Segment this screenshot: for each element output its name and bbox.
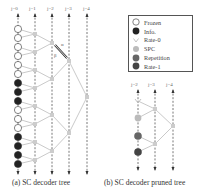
leaf-frozen: [14, 124, 21, 131]
stage-label-j4: j=4: [165, 82, 173, 87]
tree-b-internal-nodes: [153, 107, 175, 146]
tree-a-leaves: [14, 25, 21, 167]
caption-tree-b: (b) SC decoder pruned tree: [104, 178, 185, 187]
legend-item-rate-0: Rate-0: [132, 36, 189, 45]
rate-1-icon: [132, 62, 140, 70]
rate-0-icon: [132, 36, 140, 44]
legend-item-rate-1: Rate-1: [132, 62, 189, 71]
leaf-info: [14, 133, 21, 140]
leaf-frozen: [14, 106, 21, 113]
stage-label-j0: j=0: [10, 6, 18, 11]
leaf-info: [14, 142, 21, 149]
stage-label-j3: j=3: [147, 82, 155, 87]
legend-item-repetition: Repetition: [132, 53, 189, 62]
tree-b-stage-labels: j=2 j=3 j=4: [130, 82, 173, 87]
leaf-info: [14, 79, 21, 86]
leaf-info: [14, 97, 21, 104]
spc-icon: [132, 45, 140, 53]
frozen-icon: [132, 18, 140, 26]
leaf-frozen: [14, 25, 21, 32]
legend-item-spc: SPC: [132, 44, 189, 53]
stage-label-j4: j=4: [82, 6, 90, 11]
leaf-repetition: [134, 132, 142, 140]
legend-label: Frozen: [144, 19, 161, 26]
stage-label-j3: j=3: [64, 6, 72, 11]
caption-tree-a: (a) SC decoder tree: [12, 178, 70, 187]
info-icon: [132, 27, 140, 35]
leaf-frozen: [14, 52, 21, 59]
legend-label: Repetition: [144, 54, 170, 61]
tree-b-stage-lines: [138, 90, 173, 170]
legend: Frozen Info. Rate-0 SPC Repetition Rate-…: [128, 15, 193, 72]
tree-a-edges: [18, 29, 87, 164]
legend-label: Info.: [144, 28, 156, 35]
repetition-icon: [132, 54, 140, 62]
leaf-frozen: [14, 43, 21, 50]
legend-label: Rate-0: [144, 36, 161, 43]
beta-label: β: [54, 53, 57, 58]
leaf-info: [14, 151, 21, 158]
leaf-info: [14, 88, 21, 95]
stage-label-j2: j=2: [46, 6, 54, 11]
leaf-frozen: [14, 61, 21, 68]
message-arrow: α β: [54, 42, 67, 58]
alpha-label: α: [61, 42, 64, 47]
leaf-spc: [135, 115, 142, 122]
legend-item-info: Info.: [132, 27, 189, 36]
leaf-frozen: [14, 34, 21, 41]
stage-label-j1: j=1: [28, 6, 36, 11]
legend-label: Rate-1: [144, 63, 161, 70]
leaf-frozen: [14, 115, 21, 122]
legend-label: SPC: [144, 45, 155, 52]
stage-label-j2: j=2: [130, 82, 138, 87]
legend-item-frozen: Frozen: [132, 18, 189, 27]
leaf-info: [14, 160, 21, 167]
tree-a-stage-labels: j=0 j=1 j=2 j=3 j=4: [10, 6, 90, 11]
leaf-frozen: [14, 70, 21, 77]
leaf-rate-1: [134, 148, 142, 156]
